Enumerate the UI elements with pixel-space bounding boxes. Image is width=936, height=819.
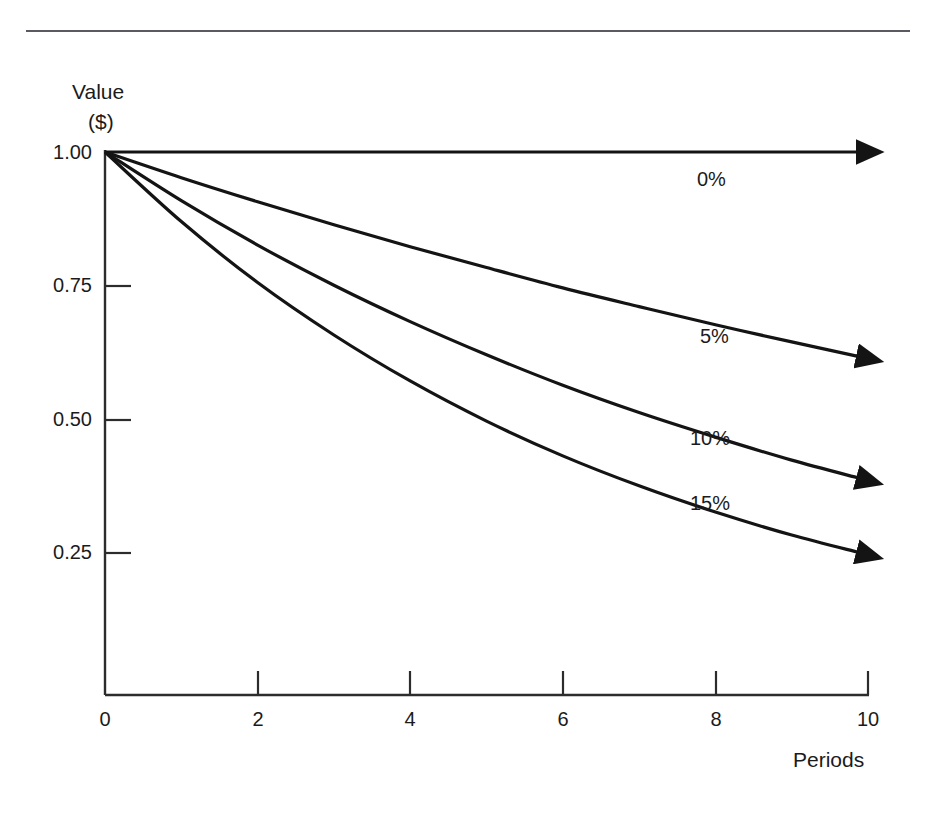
x-axis-title: Periods xyxy=(793,748,864,772)
series-annotation-5-percent: 5% xyxy=(700,325,729,348)
x-tick-label-10: 10 xyxy=(845,708,891,731)
y-axis-title-line-1: Value xyxy=(72,80,124,104)
y-tick-label-0.50: 0.50 xyxy=(22,408,92,431)
series-annotation-10-percent: 10% xyxy=(690,427,730,450)
decay-value-chart-figure: Value ($) 1.00 0.75 0.50 0.25 0 2 4 6 8 … xyxy=(0,0,936,819)
x-tick-label-4: 4 xyxy=(390,708,430,731)
series-line-10-percent xyxy=(105,152,859,478)
y-tick-label-0.25: 0.25 xyxy=(22,541,92,564)
series-line-5-percent xyxy=(105,152,859,357)
x-tick-label-0: 0 xyxy=(85,708,125,731)
y-tick-label-1.00: 1.00 xyxy=(22,141,92,164)
x-tick-label-8: 8 xyxy=(696,708,736,731)
x-tick-label-2: 2 xyxy=(238,708,278,731)
series-annotation-0-percent: 0% xyxy=(697,168,726,191)
chart-plot-area xyxy=(0,0,936,819)
y-axis-title-line-2: ($) xyxy=(88,110,114,134)
series-annotation-15-percent: 15% xyxy=(690,492,730,515)
x-tick-label-6: 6 xyxy=(543,708,583,731)
y-tick-label-0.75: 0.75 xyxy=(22,274,92,297)
